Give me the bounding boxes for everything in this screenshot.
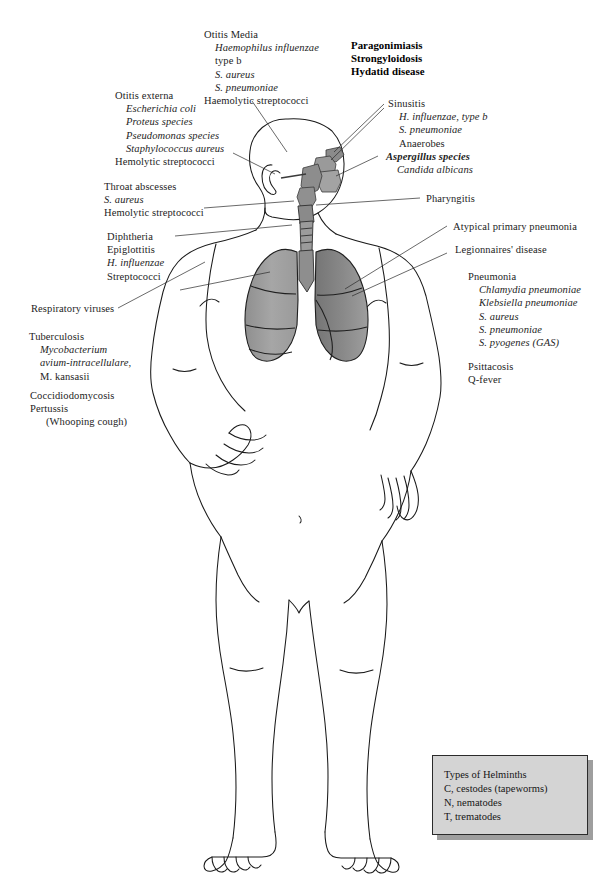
sinusitis-line-3: Anaerobes [388,137,488,150]
right-hand-finger-3 [388,478,393,518]
throat-line-2: Hemolytic streptococci [104,206,204,219]
label-atypical-pneumonia: Atypical primary pneumonia [453,220,577,233]
leader-otitis-media [252,101,287,152]
helminth-line-2: Hydatid disease [351,65,425,78]
body-outline [151,119,441,873]
fungi-line-0: Aspergillus species [386,150,473,163]
tuberculosis-line-3: M. kansasii [29,370,131,383]
psittacosis-line-1: Q-fever [468,373,513,386]
right-knee-crease [340,670,373,673]
otitis-externa-line-0: Otitis externa [115,89,224,102]
psittacosis-line-0: Psittacosis [468,360,513,373]
leader-sinusitis-b [331,108,384,160]
right-foot-outline [325,832,399,872]
left-elbow-crease [173,369,196,371]
tuberculosis-line-1: Mycobacterium [29,343,131,356]
legionnaires-line-0: Legionnaires' disease [455,243,547,256]
label-respiratory-viruses: Respiratory viruses [31,302,114,315]
carina-shape [299,250,314,292]
helminth-line-0: Paragonimiasis [351,39,425,52]
otitis-externa-line-1: Escherichia coli [115,102,224,115]
otitis-externa-line-5: Hemolytic streptococci [115,155,224,168]
label-tuberculosis: Tuberculosis Mycobacterium avium-intrace… [29,330,131,383]
pneumonia-line-2: Klebsiella pneumoniae [468,296,581,309]
pharyngitis-line-0: Pharyngitis [426,192,475,205]
leader-pneumonia-right [352,253,447,296]
leader-atypical-pneumonia [345,226,447,289]
fungi-line-1: Candida albicans [386,163,473,176]
leader-sinusitis-a [334,104,384,152]
label-pneumonia: Pneumonia Chlamydia pneumoniae Klebsiell… [468,270,581,349]
otitis-media-line-3: S. aureus [204,68,319,81]
right-elbow-crease [400,363,423,365]
right-hand-finger-4 [380,475,385,510]
right-leg-inner-outline [309,601,328,832]
waist-left-outline [190,463,221,537]
legend-box: Types of Helminths C, cestodes (tapeworm… [432,755,588,835]
navel-mark [299,516,301,523]
leader-sinusitis-c [336,156,378,176]
right-lung-shape [245,250,298,361]
helminth-line-1: Strongyloidosis [351,52,425,65]
label-coccidiodomycosis: Coccidiodomycosis Pertussis (Whooping co… [30,389,127,429]
label-helminth-diseases: Paragonimiasis Strongyloidosis Hydatid d… [351,39,425,79]
leader-diphtheria [175,225,292,236]
left-forearm-inner-outline [206,244,245,411]
respiratory-infections-diagram: Otitis Media Haemophilus influenzae type… [0,0,603,895]
throat-line-1: S. aureus [104,193,204,206]
label-sinusitis: Sinusitis H. influenzae, type b S. pneum… [388,97,488,150]
label-legionnaires: Legionnaires' disease [455,243,547,256]
atypical-line-0: Atypical primary pneumonia [453,220,577,233]
legend-title: Types of Helminths [444,768,587,782]
legend-nematodes: N, nematodes [444,796,587,810]
otitis-externa-line-4: Staphylococcus aureus [115,142,224,155]
label-diphtheria: Diphtheria Epiglottitis H. influenzae St… [107,230,164,283]
otitis-media-line-0: Otitis Media [204,28,319,41]
left-knee-crease [230,668,263,671]
trachea-shape [300,221,313,253]
otitis-media-line-1: Haemophilus influenzae [204,41,319,54]
ear-outline [262,165,280,195]
neck-left-outline [256,208,265,230]
left-leg-inner-outline [272,600,289,832]
coccidiodomycosis-line-1: Pertussis [30,402,127,415]
right-inner-arm-outline [370,248,389,430]
legend-cestodes: C, cestodes (tapeworms) [444,782,587,796]
respiratory-viruses-line-0: Respiratory viruses [31,302,114,315]
pneumonia-line-1: Chlamydia pneumoniae [468,283,581,296]
legend-trematodes: T, trematodes [444,810,587,824]
right-leg-outer-outline [367,541,387,839]
pneumonia-line-3: S. aureus [468,310,581,323]
trachea-structure [298,205,314,292]
otitis-externa-line-3: Pseudomonas species [115,129,224,142]
diphtheria-line-3: Streptococci [107,270,164,283]
label-fungi: Aspergillus species Candida albicans [386,150,473,176]
left-hand-finger-2 [224,444,263,453]
coccidiodomycosis-line-0: Coccidiodomycosis [30,389,127,402]
sinusitis-line-1: H. influenzae, type b [388,110,488,123]
right-toe-4 [342,858,355,869]
leader-otitis-externa [233,153,275,174]
sinusitis-line-0: Sinusitis [388,97,488,110]
diphtheria-line-2: H. influenzae [107,256,164,269]
left-leg-outer-outline [216,537,236,838]
left-hand-finger-3 [216,455,255,465]
left-lung-shape [315,250,368,361]
otitis-media-line-2: type b [204,54,319,67]
diphtheria-line-0: Diphtheria [107,230,164,243]
otitis-externa-line-2: Proteus species [115,115,224,128]
leader-throat-abscess [204,201,294,208]
label-otitis-externa: Otitis externa Escherichia coli Proteus … [115,89,224,168]
pneumonia-line-4: S. pneumoniae [468,323,581,336]
tuberculosis-line-2: avium-intracellulare, [29,356,131,369]
pneumonia-line-5: S. pyogenes (GAS) [468,336,581,349]
left-toe-4 [248,857,261,868]
pelvis-outline [221,537,259,602]
tuberculosis-line-0: Tuberculosis [29,330,131,343]
throat-line-0: Throat abscesses [104,180,204,193]
label-psittacosis: Psittacosis Q-fever [468,360,513,386]
pelvis-right-outline [344,541,382,603]
crotch-outline [289,600,309,613]
pneumonia-line-0: Pneumonia [468,270,581,283]
coccidiodomycosis-line-2: (Whooping cough) [30,415,127,428]
